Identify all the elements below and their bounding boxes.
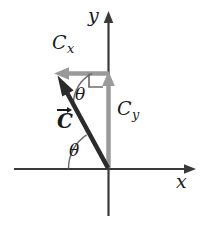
vector-components-figure: y x Cx Cy θ θ C bbox=[0, 0, 210, 225]
cx-component-vector bbox=[54, 67, 108, 80]
theta-upper-label: θ bbox=[75, 86, 85, 103]
cy-label-subscript: y bbox=[132, 107, 139, 122]
y-axis-label: y bbox=[88, 6, 99, 25]
cx-label: Cx bbox=[52, 33, 74, 56]
c-vector-label: C bbox=[56, 105, 73, 131]
cx-vector-arrowhead bbox=[54, 67, 69, 80]
axes-group bbox=[14, 11, 196, 216]
theta-lower-label: θ bbox=[69, 142, 79, 159]
cx-label-base: C bbox=[52, 31, 67, 53]
vector-accent-arrow-icon bbox=[57, 105, 72, 112]
cx-label-subscript: x bbox=[67, 41, 74, 56]
cy-label-base: C bbox=[117, 97, 132, 119]
c-vector-arrowhead bbox=[58, 76, 74, 97]
x-axis-label: x bbox=[176, 172, 187, 191]
cy-component-vector bbox=[102, 71, 115, 168]
c-vector-label-text: C bbox=[57, 111, 73, 131]
y-axis-arrowhead bbox=[104, 11, 114, 23]
cy-label: Cy bbox=[117, 99, 139, 122]
